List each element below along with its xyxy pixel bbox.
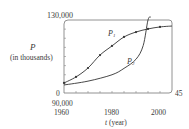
p1-data-point [147,28,149,30]
x-axis-unit: (year) [109,118,127,127]
p1-curve [64,26,172,83]
p1-data-point [159,26,161,28]
p2-curve [64,17,151,85]
p1-data-point [87,67,89,69]
x-tick-2000: 2000 [151,108,166,117]
p1-data-point [111,45,113,47]
p1-curve-label: P1 [108,29,115,40]
y-axis-min-label: 90,000 [52,99,73,108]
x-axis-variable: t [105,118,107,127]
p1-data-point [99,54,101,56]
p1-label-sub: 1 [113,33,116,38]
x-axis-title: t (year) [105,118,127,127]
p1-data-point [75,76,77,78]
y-axis-max-label: 130,000 [47,11,73,20]
p1-data-point [135,31,137,33]
x-tick-1960: 1960 [54,108,69,117]
y-axis-variable: P [30,43,36,52]
p2-label-sub: 2 [132,61,135,66]
x-axis-end-label: 45 [175,89,183,98]
x-tick-1980: 1980 [104,108,119,117]
x-axis-origin-label: 0 [56,89,60,98]
p1-data-point [63,82,65,84]
y-axis-unit: (in thousands) [10,53,53,62]
plot-frame [64,20,172,93]
p1-data-point [123,36,125,38]
p2-curve-label: P2 [127,57,134,68]
